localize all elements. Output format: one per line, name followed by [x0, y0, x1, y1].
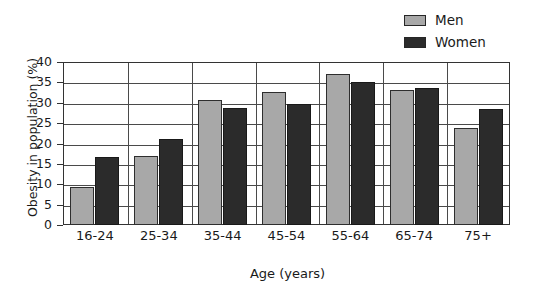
gridline-horizontal: [64, 124, 509, 125]
x-axis-title: Age (years): [60, 266, 515, 281]
y-tick-label: 0: [44, 219, 52, 231]
y-tick-label: 20: [36, 138, 52, 150]
y-tick-label: 5: [44, 199, 52, 211]
gridline-vertical: [128, 63, 129, 224]
gridline-horizontal: [64, 104, 509, 105]
obesity-bar-chart: Men Women Obesity in population (%) 0510…: [0, 0, 541, 298]
y-tick-label: 30: [36, 97, 52, 109]
y-tick-label: 10: [36, 178, 52, 190]
y-tick-label: 35: [36, 76, 52, 88]
chart-legend: Men Women: [404, 10, 534, 54]
x-tick-label: 25-34: [140, 228, 178, 243]
y-tick-label: 25: [36, 117, 52, 129]
plot-area: [63, 62, 510, 225]
gridline-horizontal: [64, 83, 509, 84]
y-tick-label: 15: [36, 158, 52, 170]
x-tick-label: 45-54: [268, 228, 306, 243]
x-tick-label: 16-24: [76, 228, 114, 243]
gridline-vertical: [256, 63, 257, 224]
y-axis-ticks: 0510152025303540: [0, 62, 63, 225]
legend-label-women: Women: [435, 35, 486, 49]
gridline-horizontal: [64, 185, 509, 186]
legend-swatch-women-icon: [404, 37, 426, 48]
legend-label-men: Men: [435, 13, 464, 27]
x-tick-label: 35-44: [204, 228, 242, 243]
gridline-vertical: [192, 63, 193, 224]
gridline-vertical: [319, 63, 320, 224]
x-tick-label: 75+: [464, 228, 491, 243]
x-tick-label: 55-64: [331, 228, 369, 243]
x-tick-label: 65-74: [395, 228, 433, 243]
y-tick-mark: [57, 225, 63, 226]
gridline-vertical: [383, 63, 384, 224]
y-tick-label: 40: [36, 56, 52, 68]
legend-swatch-men-icon: [404, 15, 426, 26]
gridline-horizontal: [64, 206, 509, 207]
x-axis-tick-labels: 16-2425-3435-4445-5455-6465-7475+: [63, 228, 510, 248]
gridline-vertical: [447, 63, 448, 224]
gridline-horizontal: [64, 165, 509, 166]
legend-item-women: Women: [404, 32, 534, 52]
legend-item-men: Men: [404, 10, 534, 30]
gridline-horizontal: [64, 145, 509, 146]
